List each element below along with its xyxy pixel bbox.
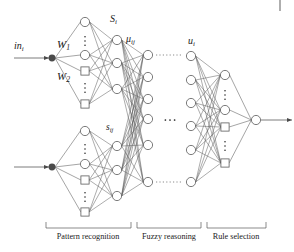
s-node [112, 84, 121, 93]
vertical-ellipsis-dot [224, 94, 226, 96]
mu-node [143, 94, 152, 103]
output-node [251, 115, 260, 124]
rule-node [220, 70, 229, 79]
vertical-ellipsis-dot [84, 200, 86, 202]
pattern-node [81, 176, 89, 184]
s-node [112, 58, 121, 67]
rule-node [221, 159, 229, 167]
pattern-node [81, 100, 89, 108]
vertical-ellipsis-dot [84, 91, 86, 93]
edge-s-mu [122, 40, 144, 145]
rule-node [220, 105, 229, 114]
bracket-pattern-recognition [46, 222, 131, 228]
edge-pattern-s [89, 196, 112, 212]
bracket-rule-selection [207, 222, 266, 228]
edge-input-pattern [55, 55, 80, 58]
label-input: ini [14, 40, 24, 53]
vertical-ellipsis-dot [84, 192, 86, 194]
edge-pattern-s [89, 40, 112, 71]
vertical-ellipsis-dot [84, 36, 86, 38]
edge-u-rule [196, 56, 221, 163]
edge-pattern-s [90, 131, 113, 196]
pattern-node [81, 67, 89, 75]
u-node [186, 75, 195, 84]
edge-pattern-s [89, 71, 112, 89]
edge-pattern-s [89, 146, 112, 212]
vertical-ellipsis-dot [84, 196, 86, 198]
mu-node [143, 50, 152, 59]
pattern-node [80, 17, 89, 26]
mu-node [143, 114, 152, 123]
edge-pattern-s [89, 63, 112, 71]
mu-node [143, 177, 152, 186]
label-weight-1: W1 [57, 38, 70, 52]
pattern-node [81, 208, 89, 216]
mu-node [143, 72, 152, 81]
pattern-node [80, 50, 89, 59]
input-node [49, 164, 56, 171]
edge-input-pattern [55, 164, 80, 167]
edge-u-rule [196, 150, 221, 163]
s-node [112, 35, 121, 44]
u-node [186, 177, 195, 186]
edge-rule-output [230, 110, 252, 120]
section-label-rule-selection: Rule selection [213, 232, 260, 241]
input-node [49, 55, 56, 62]
vertical-ellipsis-dot [224, 149, 226, 151]
vertical-ellipsis-dot [224, 141, 226, 143]
edge-rule-output [230, 75, 252, 120]
edge-pattern-s [90, 164, 113, 196]
edge-pattern-s [89, 89, 112, 104]
vertical-ellipsis-dot [84, 40, 86, 42]
vertical-ellipsis-dot [84, 83, 86, 85]
section-label-fuzzy-reasoning: Fuzzy reasoning [142, 232, 196, 241]
horizontal-ellipsis-dot [174, 119, 176, 121]
edge-s-mu [122, 119, 144, 196]
u-node [186, 121, 195, 130]
vertical-ellipsis-dot [224, 145, 226, 147]
label-mu: μij [125, 33, 135, 46]
s-node [112, 141, 121, 150]
figure-canvas: Pattern recognitionFuzzy reasoningRule s… [0, 0, 294, 252]
vertical-ellipsis-dot [84, 44, 86, 46]
horizontal-ellipsis-dot [165, 119, 167, 121]
vertical-ellipsis-dot [84, 152, 86, 154]
horizontal-ellipsis-dot [169, 119, 171, 121]
label-s-lower: sij [106, 122, 114, 133]
label-u: ui [188, 35, 195, 48]
vertical-ellipsis-dot [84, 87, 86, 89]
rule-node [221, 123, 229, 131]
edge-u-rule [196, 80, 221, 163]
edge-s-mu [122, 145, 144, 146]
u-node [186, 145, 195, 154]
pattern-node [80, 159, 89, 168]
label-s-upper: Si [110, 13, 117, 26]
connection-edges [14, 22, 292, 212]
vertical-ellipsis-dot [84, 144, 86, 146]
u-node [186, 98, 195, 107]
edge-pattern-s [89, 180, 112, 196]
network-nodes [49, 17, 261, 216]
pattern-node [80, 126, 89, 135]
edge-u-rule [196, 126, 221, 163]
math-labels: iniW1W2Siμijsijui [14, 13, 195, 133]
edge-u-rule [196, 80, 221, 110]
u-node [186, 51, 195, 60]
bracket-fuzzy-reasoning [137, 222, 201, 228]
mu-node [143, 140, 152, 149]
neural-network-diagram: Pattern recognitionFuzzy reasoningRule s… [0, 0, 294, 252]
edge-rule-output [229, 120, 251, 163]
vertical-ellipsis-dot [224, 98, 226, 100]
vertical-ellipsis-dot [224, 90, 226, 92]
vertical-ellipsis-dot [84, 148, 86, 150]
s-node [112, 191, 121, 200]
edge-input-pattern [55, 131, 80, 167]
label-weight-2: W2 [57, 70, 70, 84]
edge-pattern-s [90, 22, 113, 40]
edge-u-rule [196, 56, 221, 127]
s-node [112, 165, 121, 174]
edge-pattern-s [89, 40, 112, 104]
section-brackets: Pattern recognitionFuzzy reasoningRule s… [46, 222, 266, 241]
section-label-pattern-recognition: Pattern recognition [57, 232, 120, 241]
